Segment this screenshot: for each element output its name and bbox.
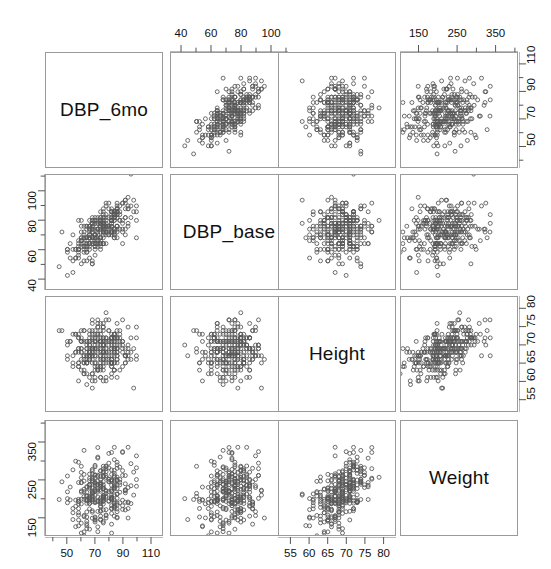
tick-label: 110 bbox=[142, 547, 160, 559]
scatter-panel-dbp_base-vs-height bbox=[170, 296, 288, 412]
tick-label: 65 bbox=[525, 350, 537, 363]
tick-label: 60 bbox=[525, 369, 537, 382]
scatter-panel-weight-vs-height bbox=[400, 296, 518, 412]
diagonal-panel-weight: Weight bbox=[400, 420, 518, 536]
axis-top-weight bbox=[400, 43, 518, 52]
tick-label: 60 bbox=[26, 250, 38, 263]
tick-label: 80 bbox=[26, 220, 38, 233]
tick-label: 55 bbox=[284, 547, 297, 559]
tick-label: 75 bbox=[359, 547, 372, 559]
variable-name-label: DBP_base bbox=[183, 221, 275, 243]
tick-label: 110 bbox=[525, 46, 537, 64]
tick-label: 250 bbox=[447, 27, 466, 39]
axis-bottom-dbp_6mo bbox=[45, 537, 163, 546]
variable-name-label: Height bbox=[309, 343, 365, 365]
tick-label: 70 bbox=[525, 106, 537, 119]
tick-label: 90 bbox=[117, 547, 130, 559]
scatter-panel-height-vs-weight bbox=[278, 420, 396, 536]
tick-label: 65 bbox=[321, 547, 334, 559]
tick-label: 350 bbox=[26, 442, 38, 461]
tick-label: 80 bbox=[377, 547, 390, 559]
tick-label: 100 bbox=[26, 191, 38, 210]
scatter-panel-height-vs-dbp_6mo bbox=[278, 52, 396, 168]
scatter-panel-weight-vs-dbp_base bbox=[400, 174, 518, 290]
tick-label: 50 bbox=[60, 547, 73, 559]
scatter-panel-dbp_base-vs-dbp_6mo bbox=[170, 52, 288, 168]
tick-label: 60 bbox=[303, 547, 316, 559]
axis-bottom-height bbox=[278, 537, 396, 546]
tick-label: 55 bbox=[525, 387, 537, 400]
diagonal-panel-dbp_6mo: DBP_6mo bbox=[45, 52, 163, 168]
tick-label: 50 bbox=[525, 134, 537, 147]
tick-label: 60 bbox=[205, 27, 218, 39]
scatter-panel-dbp_6mo-vs-height bbox=[45, 296, 163, 412]
tick-label: 70 bbox=[525, 332, 537, 345]
tick-label: 250 bbox=[26, 480, 38, 499]
diagonal-panel-height: Height bbox=[278, 296, 396, 412]
tick-label: 40 bbox=[26, 279, 38, 292]
tick-label: 70 bbox=[340, 547, 353, 559]
tick-label: 80 bbox=[235, 27, 248, 39]
tick-label: 350 bbox=[486, 27, 505, 39]
scatterplot-matrix-figure: DBP_6moDBP_baseHeightWeight4060801001502… bbox=[0, 0, 551, 569]
diagonal-panel-dbp_base: DBP_base bbox=[170, 174, 288, 290]
scatter-panel-dbp_6mo-vs-dbp_base bbox=[45, 174, 163, 290]
scatter-panel-dbp_6mo-vs-weight bbox=[45, 420, 163, 536]
tick-label: 150 bbox=[409, 27, 428, 39]
tick-label: 75 bbox=[525, 314, 537, 327]
tick-label: 90 bbox=[525, 79, 537, 92]
tick-label: 100 bbox=[261, 27, 280, 39]
tick-label: 150 bbox=[26, 518, 38, 537]
scatter-panel-dbp_base-vs-weight bbox=[170, 420, 288, 536]
axis-top-dbp_base bbox=[170, 43, 288, 52]
variable-name-label: Weight bbox=[429, 467, 489, 489]
tick-label: 70 bbox=[88, 547, 101, 559]
variable-name-label: DBP_6mo bbox=[60, 99, 148, 121]
tick-label: 80 bbox=[525, 296, 537, 309]
scatter-panel-height-vs-dbp_base bbox=[278, 174, 396, 290]
scatter-panel-weight-vs-dbp_6mo bbox=[400, 52, 518, 168]
tick-label: 40 bbox=[175, 27, 188, 39]
